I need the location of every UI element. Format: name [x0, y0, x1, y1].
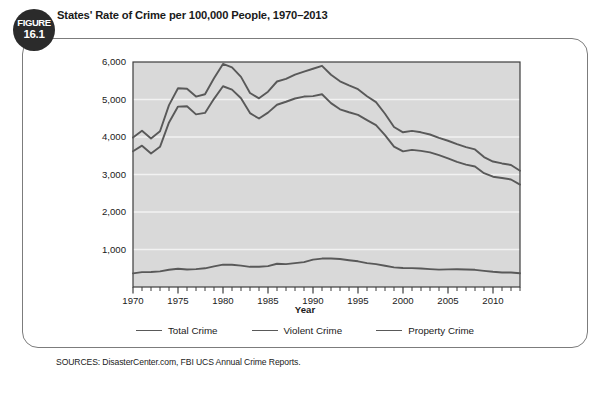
y-axis-tick-label: 6,000	[102, 56, 126, 67]
legend-swatch-violent-crime	[252, 330, 278, 331]
figure-badge: FIGURE 16.1	[13, 9, 55, 51]
legend-label-property-crime: Property Crime	[408, 325, 474, 336]
y-axis-tick-label: 4,000	[102, 131, 126, 142]
chart-legend: Total Crime Violent Crime Property Crime	[0, 325, 610, 336]
y-axis-tick-label: 1,000	[102, 244, 126, 255]
sources-note: SOURCES: DisasterCenter.com, FBI UCS Ann…	[56, 357, 300, 367]
legend-swatch-property-crime	[376, 330, 402, 331]
legend-label-violent-crime: Violent Crime	[284, 325, 343, 336]
figure-container: States' Rate of Crime per 100,000 People…	[0, 0, 610, 394]
legend-item-total-crime: Total Crime	[136, 325, 218, 336]
y-axis-tick-label: 5,000	[102, 94, 126, 105]
y-axis-tick-label: 2,000	[102, 206, 126, 217]
legend-swatch-total-crime	[136, 330, 162, 331]
x-axis-label: Year	[0, 304, 610, 315]
figure-badge-word: FIGURE	[13, 18, 55, 28]
legend-item-violent-crime: Violent Crime	[252, 325, 343, 336]
figure-badge-number: 16.1	[13, 28, 55, 41]
legend-label-total-crime: Total Crime	[168, 325, 218, 336]
y-axis-tick-label: 3,000	[102, 169, 126, 180]
legend-item-property-crime: Property Crime	[376, 325, 474, 336]
chart-area: 1,0002,0003,0004,0005,0006,0001970197519…	[0, 0, 610, 394]
